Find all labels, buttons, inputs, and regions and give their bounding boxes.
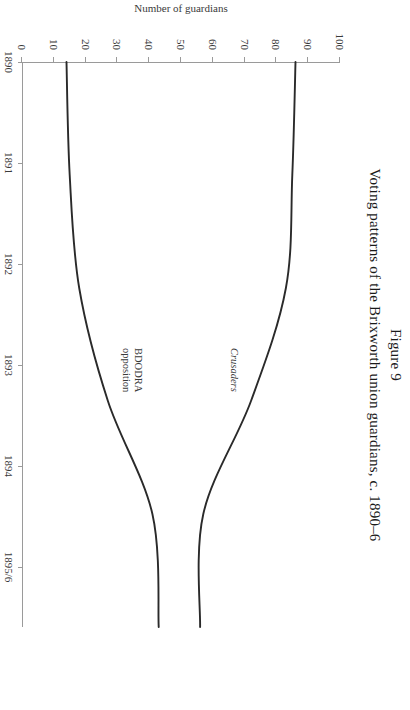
series-label-bdodra-line1: BDODRA — [132, 348, 144, 392]
series-label-crusaders: Crusaders — [228, 348, 240, 392]
y-label-70: 70 — [239, 39, 251, 50]
figure-number: Figure 9 — [387, 0, 404, 710]
y-label-100: 100 — [334, 34, 346, 51]
figure-page: Figure 9 Voting patterns of the Brixwort… — [0, 0, 410, 710]
figure-caption: Voting patterns of the Brixworth union g… — [366, 0, 383, 710]
y-label-10: 10 — [48, 39, 60, 50]
y-label-20: 20 — [80, 39, 92, 50]
x-label-1895-6: 1895/6 — [3, 552, 22, 583]
x-label-1894: 1894 — [3, 455, 22, 477]
figure-title-block: Figure 9 Voting patterns of the Brixwort… — [366, 0, 404, 710]
curve-bdodra-opposition — [67, 62, 159, 627]
plot-area: 1890 1891 1892 1893 1894 1895/6 Date 0 1… — [22, 62, 340, 627]
rotated-figure-container: Figure 9 Voting patterns of the Brixwort… — [0, 0, 410, 710]
x-label-1891: 1891 — [3, 152, 22, 174]
y-label-0: 0 — [16, 45, 28, 51]
y-label-40: 40 — [143, 39, 155, 50]
y-label-90: 90 — [302, 39, 314, 50]
y-label-60: 60 — [207, 39, 219, 50]
curves-svg — [22, 62, 340, 627]
x-label-1892: 1892 — [3, 253, 22, 275]
y-label-50: 50 — [175, 39, 187, 50]
y-label-80: 80 — [270, 39, 282, 50]
x-label-1893: 1893 — [3, 354, 22, 376]
y-label-30: 30 — [111, 39, 123, 50]
curve-crusaders — [199, 62, 296, 627]
series-label-bdodra-line2: opposition — [120, 348, 132, 392]
y-axis-title: Number of guardians — [134, 2, 227, 14]
x-label-1890: 1890 — [3, 51, 22, 73]
series-label-bdodra-opposition: BDODRA opposition — [120, 348, 144, 392]
